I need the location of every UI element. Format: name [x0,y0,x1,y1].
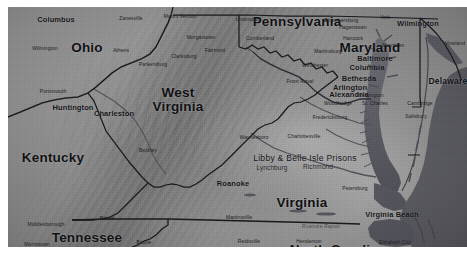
city-label-athens: Athens [113,48,129,53]
city-label-waynesboro: Waynesboro [240,135,269,140]
city-label-martinsburg: Martinsburg [314,49,342,54]
city-label-middlesborough: Middlesborough [28,222,65,227]
city-label-baltimore: Baltimore [357,55,393,63]
state-label-virginia: Virginia [277,196,328,210]
city-label-york: York [380,15,390,20]
city-label-morgantown: Morgantown [187,35,216,40]
city-label-cumberland: Cumberland [246,36,274,41]
city-label-roanoke: Roanoke [217,180,249,188]
city-label-vineland: Vineland [445,41,465,46]
city-label-portsmouth: Portsmouth [40,89,67,94]
city-label-washington: Washington [356,93,383,98]
water-label-roanoke-rapids: Roanoke Rapids [302,224,340,229]
state-label-north-carolina: North Carolina [290,243,387,247]
city-label-clarksburg: Clarksburg [171,54,196,59]
relief-map-plate[interactable]: Ohio Pennsylvania Maryland West Virginia… [8,7,467,247]
city-label-st-charles: St. Charles [362,101,388,106]
city-label-petersburg: Petersburg [342,186,367,191]
city-label-bethesda: Bethesda [342,75,377,83]
city-label-reidsville: Reidsville [238,239,260,244]
city-label-martinsville: Martinsville [226,215,252,220]
city-label-parkersburg: Parkersburg [139,62,167,67]
city-label-columbia: Columbia [350,64,385,72]
city-label-richmond: Richmond [303,164,333,171]
city-label-beckley: Beckley [139,148,157,153]
city-label-hagerstown: Hagerstown [339,25,367,30]
city-label-front-royal: Front Royal [287,79,314,84]
city-label-bristol: Bristol [100,216,115,221]
city-label-huntington: Huntington [53,104,94,112]
city-label-henderson: Henderson [296,239,321,244]
state-label-west-virginia: West Virginia [153,86,204,114]
city-label-aberdeen: Aberdeen [382,43,405,48]
city-label-charleston: Charleston [94,110,134,118]
city-label-salisbury: Salisbury [405,114,426,119]
city-label-mount-vernon: Mount Vernon [164,14,196,19]
city-label-fredericksburg: Fredericksburg [313,115,348,120]
city-label-cambridge: Cambridge [407,101,432,106]
city-label-morristown: Morristown [24,242,49,247]
state-label-delaware: Delaware [429,77,467,86]
city-label-wilmington-oh: Wilmington [32,46,58,51]
state-label-ohio: Ohio [71,41,103,55]
city-label-wilmington-de: Wilmington [397,20,439,28]
page-background: Ohio Pennsylvania Maryland West Virginia… [0,0,467,262]
city-label-fairmont: Fairmont [205,48,226,53]
state-label-kentucky: Kentucky [22,151,84,165]
city-label-virginia-beach: Virginia Beach [365,211,418,219]
city-label-columbus: Columbus [37,16,74,24]
state-label-west-virginia-line2: Virginia [153,100,204,114]
state-label-tennessee: Tennessee [52,231,123,245]
city-label-hancock: Hancock [343,36,363,41]
city-label-chambersburg: Chambersburg [324,18,358,23]
city-label-lynchburg: Lynchburg [256,165,287,172]
city-label-boone: Boone [137,240,152,245]
annotation-libby-belle-isle-prisons: Libby & Belle Isle Prisons [253,154,357,163]
city-label-charlottesville: Charlottesville [288,134,321,139]
city-label-elizabeth-city: Elizabeth City [379,240,411,245]
city-label-uniontown: Uniontown [236,17,261,22]
city-label-zanesville: Zanesville [119,16,143,21]
city-label-winchester: Winchester [302,63,328,68]
state-label-west-virginia-line1: West [153,86,204,100]
city-label-woodbridge: Woodbridge [324,101,352,106]
